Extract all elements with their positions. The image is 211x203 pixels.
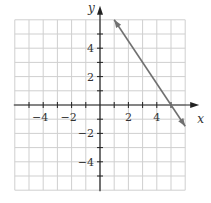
x-axis-label: x	[197, 112, 204, 126]
x-axis-arrow-icon	[190, 102, 199, 108]
y-axis-arrow-icon	[97, 6, 103, 15]
x-tick-label: −2	[60, 111, 76, 124]
y-tick-label: 4	[87, 42, 94, 55]
coordinate-plane: −4−22442−2−4xy	[0, 0, 211, 203]
y-tick-label: −2	[78, 127, 94, 140]
x-tick-label: 4	[153, 111, 160, 124]
x-tick-label: 2	[125, 111, 132, 124]
x-tick-label: −4	[32, 111, 48, 124]
y-axis-label: y	[87, 1, 95, 15]
y-tick-label: 2	[87, 71, 94, 84]
y-tick-label: −4	[78, 156, 94, 169]
line-arrow-start-icon	[114, 20, 121, 28]
